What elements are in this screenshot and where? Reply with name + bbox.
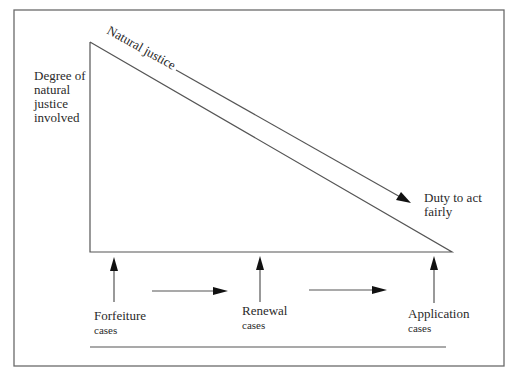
application-label: Application (408, 306, 470, 321)
renewal-arrow (256, 256, 264, 302)
duty-to-act-fairly-label: Duty to act fairly (424, 190, 485, 219)
y-axis-label-line-4: involved (34, 110, 80, 125)
diagram-canvas: Degree of natural justice involved Natur… (0, 0, 516, 379)
forfeiture-to-renewal-arrow (152, 287, 228, 295)
application-arrow (430, 256, 438, 303)
y-axis-label-line-3: justice (33, 96, 68, 111)
renewal-to-application-arrow (309, 286, 387, 294)
y-axis-label-line-2: natural (34, 82, 70, 97)
continuum-diagonal-arrowhead (396, 192, 411, 203)
renewal-cases-label: Renewal (242, 303, 288, 318)
y-axis-label: Degree of natural justice involved (33, 68, 89, 125)
application-arrowhead (430, 256, 438, 270)
forfeiture-cases-label: Forfeiture (94, 308, 146, 323)
natural-justice-triangle (90, 42, 452, 252)
progression-arrow-2-head (372, 286, 387, 294)
duty-label-line-1: Duty to act (424, 190, 482, 205)
natural-justice-label: Natural justice (105, 23, 179, 73)
application-cases-label: Application (408, 306, 470, 321)
y-axis-label-line-1: Degree of (34, 68, 86, 83)
forfeiture-cases-sub: cases (94, 324, 117, 336)
forfeiture-arrowhead (110, 257, 118, 271)
forfeiture-label: Forfeiture (94, 308, 146, 323)
renewal-cases-sub: cases (242, 319, 265, 331)
duty-label-line-2: fairly (424, 204, 453, 219)
forfeiture-arrow (110, 257, 118, 302)
renewal-arrowhead (256, 256, 264, 270)
renewal-label: Renewal (242, 303, 288, 318)
continuum-diagonal-arrow-shaft (176, 70, 402, 198)
application-cases-sub: cases (408, 322, 431, 334)
progression-arrow-1-head (213, 287, 228, 295)
